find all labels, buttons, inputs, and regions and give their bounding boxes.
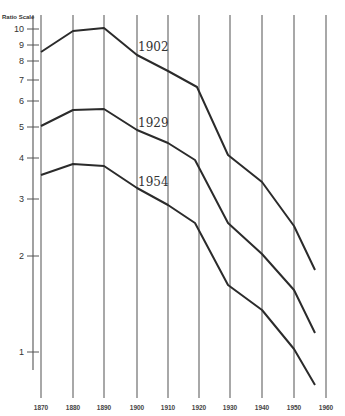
y-tick-label-1: 1 (19, 347, 24, 357)
y-tick-label-7: 7 (19, 75, 24, 85)
y-tick-label-6: 6 (19, 96, 24, 106)
x-tick-label-1910: 1910 (161, 404, 176, 411)
y-axis: Ratio Scale (2, 14, 35, 370)
x-tick-label-1920: 1920 (192, 404, 207, 411)
y-tick-label-2: 2 (19, 251, 24, 261)
x-tick-label-1930: 1930 (223, 404, 238, 411)
series-label-1954: 1954 (138, 175, 169, 189)
y-tick-label-3: 3 (19, 194, 24, 204)
y-tick-label-9: 9 (19, 40, 24, 50)
x-tick-label-1900: 1900 (130, 404, 145, 411)
x-tick-label-1950: 1950 (287, 404, 302, 411)
x-tick-label-1960: 1960 (319, 404, 334, 411)
y-tick-label-10: 10 (14, 24, 24, 34)
y-tick-label-5: 5 (19, 122, 24, 132)
series-line-1929 (41, 109, 315, 333)
series-lines (41, 28, 315, 385)
series-labels: 190219291954 (138, 40, 169, 189)
y-axis-title: Ratio Scale (2, 14, 35, 20)
x-tick-label-1870: 1870 (34, 404, 49, 411)
y-tick-label-4: 4 (19, 153, 24, 163)
x-tick-label-1940: 1940 (255, 404, 270, 411)
x-tick-label-1890: 1890 (97, 404, 112, 411)
series-label-1929: 1929 (138, 116, 169, 130)
y-tick-label-8: 8 (19, 56, 24, 66)
ratio-scale-line-chart: Ratio Scale 10987654321 1870188018901900… (0, 0, 345, 416)
x-tick-labels: 1870188018901900191019201930194019501960 (34, 404, 334, 411)
x-tick-label-1880: 1880 (66, 404, 81, 411)
decade-gridlines (41, 15, 326, 398)
series-label-1902: 1902 (138, 40, 169, 54)
y-ticks: 10987654321 (14, 24, 39, 357)
